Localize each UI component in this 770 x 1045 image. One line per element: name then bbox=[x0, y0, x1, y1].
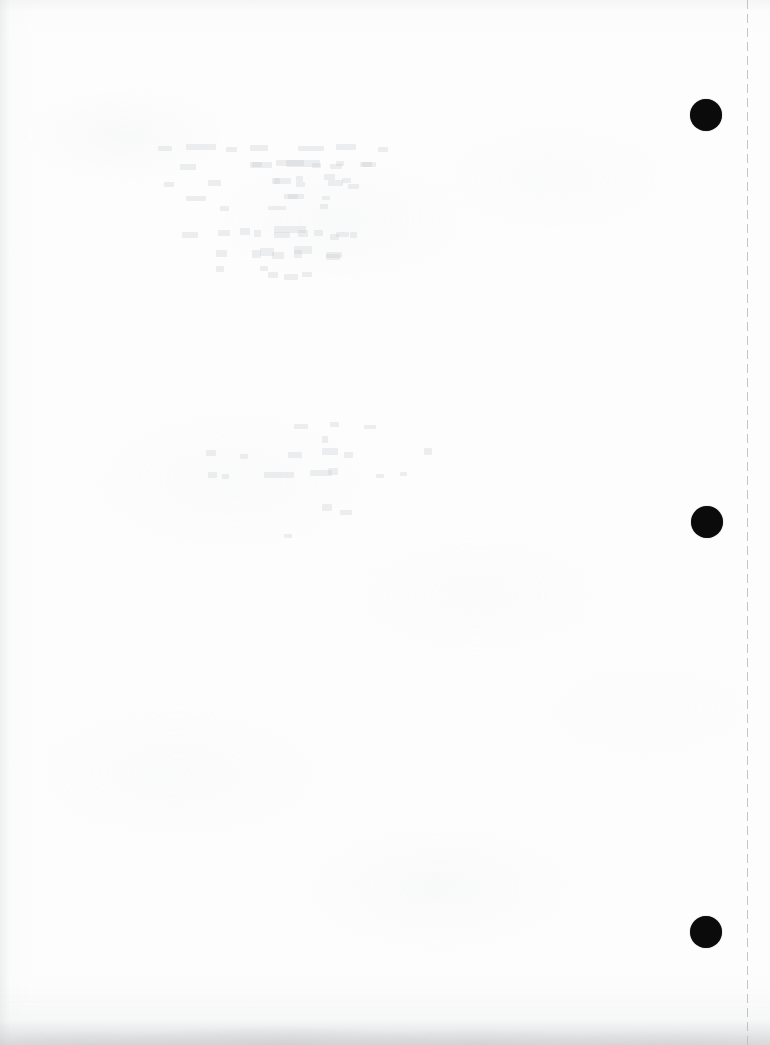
paper-surface bbox=[0, 0, 770, 1045]
binder-hole-bottom bbox=[690, 916, 722, 948]
perforation-line bbox=[747, 0, 748, 1045]
binder-hole-middle bbox=[691, 506, 723, 538]
scanned-page: Blank lined-paper scan No legible text i… bbox=[0, 0, 770, 1045]
binder-hole-top bbox=[690, 99, 722, 131]
